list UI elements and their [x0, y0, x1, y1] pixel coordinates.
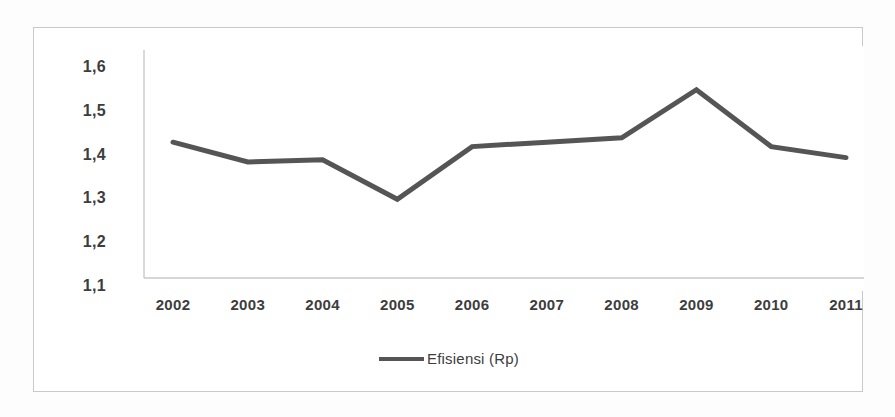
x-axis-tick-label: 2007 [530, 296, 565, 313]
x-axis: 2002200320042005200620072008200920102011 [111, 296, 864, 326]
legend-item-efisiensi: Efisiensi (Rp) [379, 350, 519, 367]
y-axis-tick-label: 1,2 [48, 234, 106, 250]
y-axis-tick-label: 1,4 [48, 147, 106, 163]
y-axis-tick-label: 1,3 [48, 190, 106, 206]
x-axis-tick-label: 2006 [455, 296, 490, 313]
y-axis: 1,61,51,41,31,21,1 [48, 36, 106, 276]
legend-line-swatch [379, 357, 424, 361]
x-axis-tick-label: 2009 [679, 296, 714, 313]
y-axis-tick-label: 1,5 [48, 103, 106, 119]
x-axis-tick-label: 2008 [604, 296, 639, 313]
y-axis-tick-label: 1,6 [48, 59, 106, 75]
data-series-line [173, 90, 846, 200]
x-axis-tick-label: 2011 [829, 296, 863, 313]
x-axis-tick-label: 2004 [305, 296, 340, 313]
x-axis-tick-label: 2002 [156, 296, 191, 313]
chart-page: 1,61,51,41,31,21,1 200220032004200520062… [0, 0, 895, 417]
x-axis-tick-label: 2003 [230, 296, 265, 313]
chart-frame: 1,61,51,41,31,21,1 200220032004200520062… [33, 27, 863, 392]
y-axis-tick-label: 1,1 [48, 278, 106, 294]
plot-area [111, 46, 864, 291]
x-axis-tick-label: 2010 [754, 296, 789, 313]
x-axis-tick-label: 2005 [380, 296, 415, 313]
legend-item-label: Efisiensi (Rp) [427, 350, 519, 367]
chart-legend: Efisiensi (Rp) [34, 350, 864, 367]
line-chart-svg [111, 46, 864, 291]
